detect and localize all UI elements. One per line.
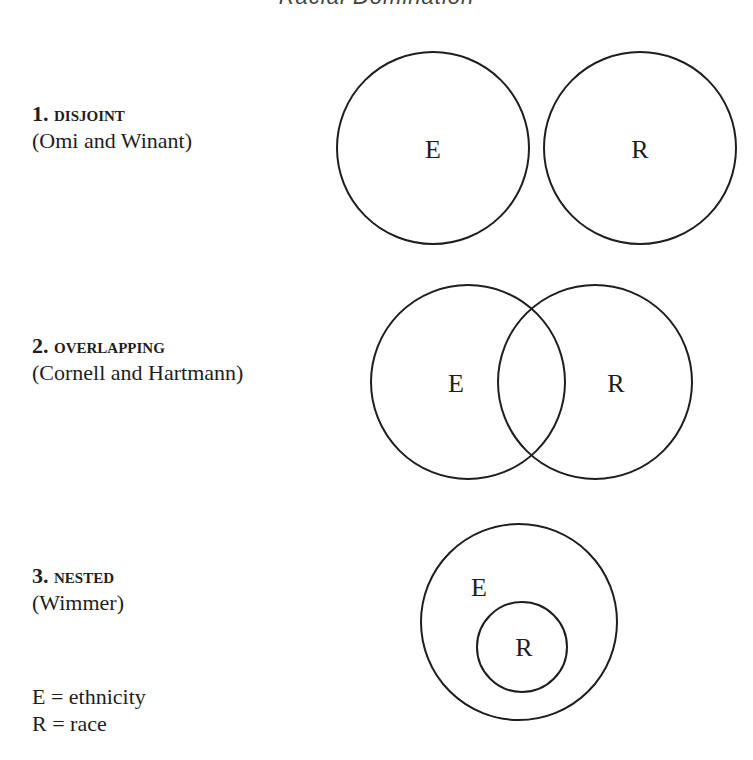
overlapping-race-circle	[498, 285, 692, 479]
disjoint-e-label: E	[425, 135, 441, 164]
overlapping-e-label: E	[448, 369, 464, 398]
venn-diagrams: E R E R E R	[0, 0, 753, 760]
nested-r-label: R	[515, 633, 533, 662]
disjoint-r-label: R	[631, 135, 649, 164]
overlapping-ethnicity-circle	[371, 285, 565, 479]
nested-ethnicity-circle	[421, 524, 617, 720]
overlapping-r-label: R	[607, 369, 625, 398]
nested-e-label: E	[471, 573, 487, 602]
